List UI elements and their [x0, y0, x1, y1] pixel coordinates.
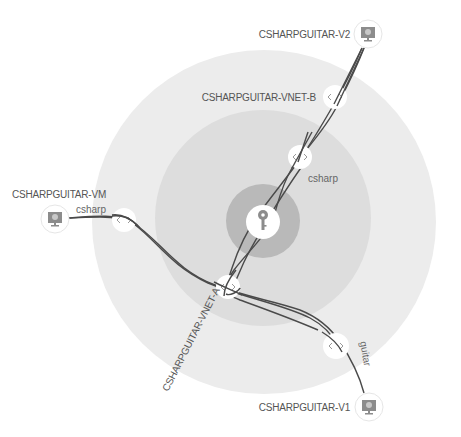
vm-node-csharpguitar-v2[interactable] [354, 20, 382, 48]
label-csharpguitar-v1: CSHARPGUITAR-V1 [259, 402, 351, 413]
label-edge-csharp-vm: csharp [76, 204, 106, 215]
vm-node-csharpguitar-v1[interactable] [355, 393, 383, 421]
network-topology-diagram: CSHARPGUITAR-V2 CSHARPGUITAR-VNET-B csha… [0, 0, 461, 437]
gateway-node-vnet-a[interactable] [216, 275, 240, 299]
label-csharpguitar-vnet-b: CSHARPGUITAR-VNET-B [202, 92, 317, 103]
hub-node[interactable] [246, 205, 280, 239]
gateway-node-guitar[interactable] [323, 333, 349, 359]
label-edge-csharp-b: csharp [308, 173, 338, 184]
label-csharpguitar-v2: CSHARPGUITAR-V2 [259, 29, 351, 40]
gateway-node-csharp-vm[interactable] [112, 208, 136, 232]
vm-node-csharpguitar-vm[interactable] [41, 205, 69, 233]
gateway-node-vnet-b[interactable] [323, 85, 347, 109]
label-csharpguitar-vm: CSHARPGUITAR-VM [12, 189, 106, 200]
